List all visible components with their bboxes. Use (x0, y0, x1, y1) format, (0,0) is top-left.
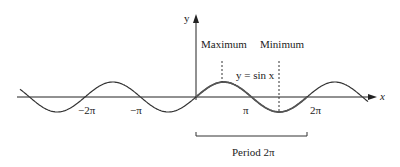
tick-label-2pi: 2π (310, 104, 322, 116)
period-bracket (196, 132, 307, 136)
y-axis-arrow-icon (193, 14, 199, 23)
tick-label-pi: π (243, 104, 249, 116)
x-axis-label: x (379, 90, 385, 102)
x-axis-arrow-icon (368, 94, 377, 100)
y-axis-label: y (184, 12, 190, 24)
sine-graph: y x −2π −π π 2π Maximum Minimum y = sin … (0, 0, 400, 167)
tick-label-neg-pi: −π (130, 104, 142, 116)
sine-graph-figure: y x −2π −π π 2π Maximum Minimum y = sin … (0, 0, 400, 167)
period-label: Period 2π (232, 146, 275, 158)
curve-label: y = sin x (236, 69, 275, 81)
maximum-label: Maximum (201, 38, 247, 50)
tick-label-neg-2pi: −2π (78, 104, 96, 116)
minimum-label: Minimum (260, 38, 304, 50)
